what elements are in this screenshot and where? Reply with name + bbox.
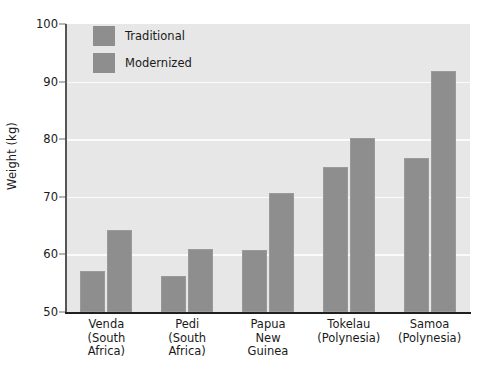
bar-traditional-1: [80, 271, 105, 312]
y-axis-tick-label: 90: [24, 75, 58, 89]
legend-swatch-modernized: [93, 53, 115, 73]
chart-legend: TraditionalModernized: [93, 26, 192, 73]
gridline: [66, 82, 470, 84]
y-axis-tick-label: 80: [24, 132, 58, 146]
x-axis-category-labels: Venda(SouthAfrica)Pedi(SouthAfrica)Papua…: [66, 318, 470, 373]
x-axis-category-label-line: New: [223, 332, 313, 346]
bar-traditional-4: [323, 167, 348, 312]
gridline: [66, 139, 470, 141]
x-axis-category-label-line: (South: [142, 332, 232, 346]
x-axis-category-label: PapuaNewGuinea: [223, 318, 313, 359]
y-axis-tick-label: 50: [24, 305, 58, 319]
bar-chart-figure: Weight (kg) 5060708090100 TraditionalMod…: [0, 0, 490, 373]
x-axis-category-label: Samoa(Polynesia): [385, 318, 475, 345]
bar-modernized-2: [188, 249, 213, 312]
bar-modernized-1: [107, 230, 132, 312]
bar-traditional-5: [404, 158, 429, 312]
bar-traditional-3: [242, 250, 267, 312]
y-axis-title-text: Weight (kg): [5, 122, 19, 190]
y-axis-tick-label: 60: [24, 247, 58, 261]
bar-modernized-5: [431, 71, 456, 312]
x-axis-category-label: Pedi(SouthAfrica): [142, 318, 232, 359]
legend-entry-traditional: Traditional: [93, 26, 192, 46]
x-axis-category-label-line: (Polynesia): [385, 332, 475, 346]
x-axis-category-label-line: Africa): [142, 345, 232, 359]
legend-swatch-traditional: [93, 26, 115, 46]
bar-traditional-2: [161, 276, 186, 312]
x-axis-category-label: Tokelau(Polynesia): [304, 318, 394, 345]
x-axis-category-label-line: Tokelau: [304, 318, 394, 332]
x-axis-category-label: Venda(SouthAfrica): [61, 318, 151, 359]
bar-modernized-4: [350, 138, 375, 312]
x-axis-category-label-line: Venda: [61, 318, 151, 332]
y-axis-line: [65, 24, 67, 313]
y-axis-title: Weight (kg): [0, 0, 24, 312]
y-axis-tick-label: 100: [24, 17, 58, 31]
x-axis-category-label-line: Africa): [61, 345, 151, 359]
x-axis-category-label-line: (Polynesia): [304, 332, 394, 346]
y-axis-tick-labels: 5060708090100: [24, 0, 58, 373]
x-axis-category-label-line: Pedi: [142, 318, 232, 332]
x-axis-category-label-line: Papua: [223, 318, 313, 332]
legend-entry-modernized: Modernized: [93, 53, 192, 73]
x-axis-category-label-line: Samoa: [385, 318, 475, 332]
x-axis-category-label-line: Guinea: [223, 345, 313, 359]
y-axis-tick-label: 70: [24, 190, 58, 204]
x-axis-category-label-line: (South: [61, 332, 151, 346]
bar-modernized-3: [269, 193, 294, 312]
legend-label: Modernized: [125, 56, 192, 70]
legend-label: Traditional: [125, 29, 185, 43]
x-axis-line: [65, 312, 471, 314]
